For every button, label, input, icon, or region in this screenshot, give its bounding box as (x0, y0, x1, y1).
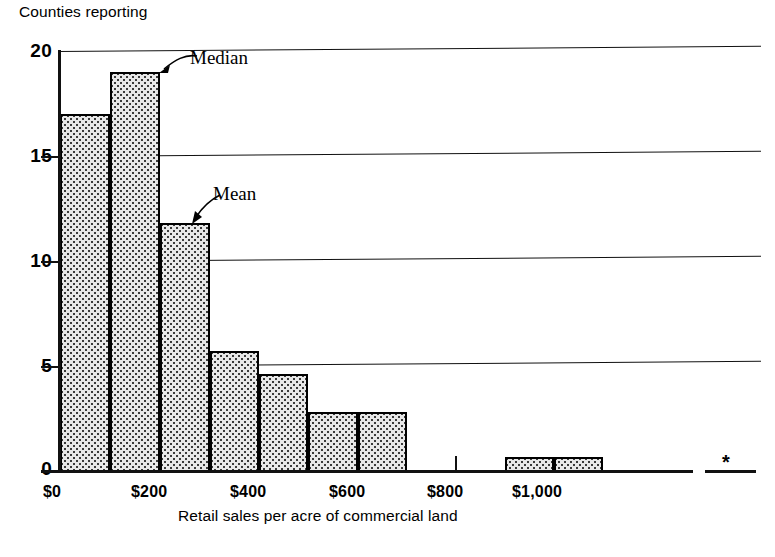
y-tick-label-20: 20 (8, 40, 52, 62)
bar-bin-600-700 (358, 412, 407, 473)
bar-bin-400-500 (259, 374, 308, 473)
y-axis-spine (58, 50, 61, 472)
x-tick-label-600: $600 (329, 483, 365, 501)
chart-figure: Counties reporting 20 15 10 5 0 * $0 $20… (0, 0, 775, 557)
y-tick-mark-10 (41, 261, 59, 263)
bar-bin-300-400 (210, 351, 259, 473)
x-tick-label-200: $200 (131, 483, 167, 501)
x-tick-label-0: $0 (43, 483, 61, 501)
y-tick-label-0: 0 (8, 458, 52, 480)
y-tick-mark-15 (41, 156, 59, 158)
annotation-mean-arrow (188, 190, 230, 228)
footnote-asterisk: * (722, 452, 730, 472)
y-tick-mark-5 (41, 366, 59, 368)
y-axis-title: Counties reporting (19, 3, 147, 21)
bar-bin-500-600 (308, 412, 358, 473)
x-tick-label-400: $400 (230, 483, 266, 501)
bar-bin-0-100 (60, 114, 110, 473)
bar-bin-100-200 (110, 72, 160, 473)
x-tick-label-800: $800 (427, 483, 463, 501)
x-axis-title: Retail sales per acre of commercial land (178, 507, 458, 525)
x-axis-spine (41, 470, 693, 473)
gridline-15 (58, 151, 761, 157)
x-axis-detached-segment (705, 470, 756, 473)
x-tick-mark-800 (455, 456, 457, 471)
bar-bin-200-300 (160, 223, 210, 473)
annotation-median-arrow (155, 50, 200, 80)
x-tick-label-1000: $1,000 (512, 483, 562, 501)
